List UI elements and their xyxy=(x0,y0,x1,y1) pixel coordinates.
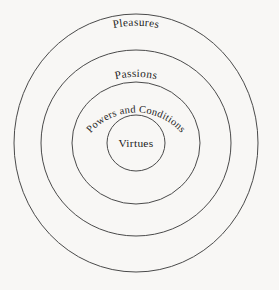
ring-label-passions-textpath: Passions xyxy=(114,67,159,81)
concentric-rings-diagram: Pleasures Passions Powers and Conditions… xyxy=(0,0,279,290)
ring-label-powers-and-conditions-textpath: Powers and Conditions xyxy=(84,103,188,134)
ring-label-powers-and-conditions: Powers and Conditions xyxy=(84,103,188,134)
ring-label-virtues: Virtues xyxy=(119,137,154,149)
ring-label-pleasures: Pleasures xyxy=(112,16,161,30)
ring-label-pleasures-textpath: Pleasures xyxy=(112,16,161,30)
rings-canvas: Pleasures Passions Powers and Conditions… xyxy=(0,0,279,290)
ring-label-passions: Passions xyxy=(114,67,159,81)
